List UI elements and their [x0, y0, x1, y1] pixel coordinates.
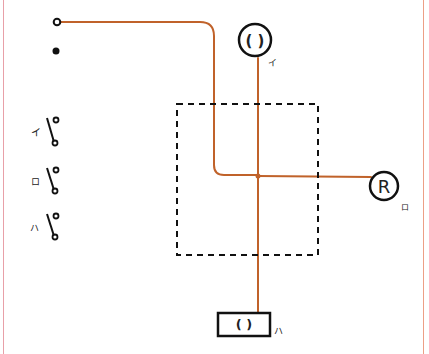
switch-ro-label: ロ [31, 177, 40, 187]
switch-i[interactable]: イ [31, 118, 59, 146]
wall-light-fixture[interactable]: ( ) ハ [218, 313, 283, 336]
switch-ha-label: ハ [30, 223, 39, 233]
switch-i-bottom-contact [53, 141, 58, 146]
open-terminal-icon [54, 19, 61, 26]
switch-i-top-contact [54, 118, 59, 123]
switch-ro[interactable]: ロ [31, 168, 59, 194]
wire-source-to-junction [60, 22, 258, 175]
wiring-diagram: ( ) イ R ロ ( ) ハ イ ロ ハ [0, 0, 429, 354]
receptacle-label: ロ [401, 203, 409, 212]
switch-ha-top-contact [54, 214, 59, 219]
wire-junction-dot [256, 174, 261, 179]
switch-ro-bottom-contact [53, 189, 58, 194]
wire-junction-to-receptacle [258, 176, 371, 177]
switch-i-label: イ [31, 127, 41, 138]
wall-light-symbol: ( ) [236, 317, 252, 332]
receptacle-light-fixture[interactable]: R ロ [370, 172, 409, 212]
switch-ro-top-contact [54, 168, 59, 173]
wall-light-label: ハ [274, 326, 283, 336]
wires [60, 22, 371, 313]
switch-i-lever [47, 118, 54, 142]
switch-ha-bottom-contact [53, 235, 58, 240]
junction-box [177, 104, 318, 255]
filled-terminal-icon [53, 48, 60, 55]
switch-ha[interactable]: ハ [30, 214, 59, 240]
ceiling-light-symbol: ( ) [246, 32, 265, 50]
receptacle-symbol: R [378, 176, 391, 197]
ceiling-light-label: イ [268, 58, 277, 68]
